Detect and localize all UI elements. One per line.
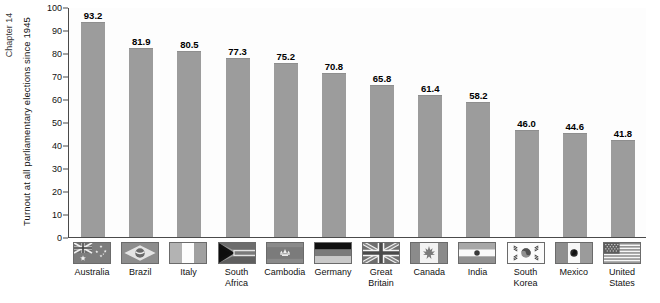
x-axis-category: Brazil — [116, 240, 164, 278]
bar[interactable] — [611, 140, 635, 237]
bar-value-label: 65.8 — [373, 73, 392, 84]
bar-slot: 80.5 — [177, 8, 201, 237]
y-tick-label: 0 — [38, 233, 62, 243]
flag-italy-icon — [169, 242, 207, 264]
x-axis-category-label: United States — [598, 267, 646, 288]
bar[interactable] — [274, 63, 298, 237]
bar-value-label: 61.4 — [421, 83, 440, 94]
bar-value-label: 44.6 — [565, 121, 584, 132]
flag-india-icon — [458, 242, 496, 264]
x-axis-category-label: South Africa — [213, 267, 261, 288]
x-axis-category: South Africa — [213, 240, 261, 288]
bar-value-label: 75.2 — [276, 51, 295, 62]
flag-south-africa-icon — [218, 242, 256, 264]
x-axis-category-label: Cambodia — [261, 267, 309, 278]
bar[interactable] — [177, 51, 201, 237]
bar-value-label: 58.2 — [469, 90, 488, 101]
bar-value-label: 41.8 — [614, 128, 633, 139]
bar[interactable] — [418, 95, 442, 237]
y-tick-label: 40 — [38, 141, 62, 151]
bar-slot: 41.8 — [611, 8, 635, 237]
x-axis-category: Canada — [405, 240, 453, 278]
x-axis-category-label: Germany — [309, 267, 357, 278]
flag-cambodia-icon — [266, 242, 304, 264]
bar-slot: 75.2 — [274, 8, 298, 237]
y-tick-label: 100 — [38, 3, 62, 13]
bar[interactable] — [129, 48, 153, 237]
x-axis-category: Cambodia — [261, 240, 309, 278]
bar-slot: 81.9 — [129, 8, 153, 237]
bar-slot: 93.2 — [81, 8, 105, 237]
x-axis-category: Italy — [164, 240, 212, 278]
chapter-tag-label: Chapter 14 — [4, 13, 14, 58]
bar[interactable] — [466, 102, 490, 237]
y-tick-label: 80 — [38, 49, 62, 59]
x-axis-category-label: Great Britain — [357, 267, 405, 288]
y-axis-ticks: 0102030405060708090100 — [34, 8, 68, 238]
bar-value-label: 80.5 — [180, 39, 199, 50]
bar[interactable] — [226, 58, 250, 237]
flag-united-states-icon — [603, 242, 641, 264]
bar-slot: 44.6 — [563, 8, 587, 237]
flag-australia-icon — [73, 242, 111, 264]
x-axis-category-label: Australia — [68, 267, 116, 278]
bar-value-label: 77.3 — [228, 46, 247, 57]
bar[interactable] — [563, 133, 587, 237]
x-axis-category-label: Canada — [405, 267, 453, 278]
x-axis-category-label: South Korea — [502, 267, 550, 288]
flag-great-britain-icon — [362, 242, 400, 264]
bar[interactable] — [322, 73, 346, 237]
y-tick-label: 30 — [38, 164, 62, 174]
chapter-tag: Chapter 14 — [0, 0, 18, 90]
bar-slot: 65.8 — [370, 8, 394, 237]
flag-mexico-icon — [555, 242, 593, 264]
bar-slot: 61.4 — [418, 8, 442, 237]
y-tick-label: 50 — [38, 118, 62, 128]
x-axis-category: India — [453, 240, 501, 278]
x-axis-category: South Korea — [502, 240, 550, 288]
x-axis-category: Great Britain — [357, 240, 405, 288]
bar-value-label: 70.8 — [325, 61, 344, 72]
turnout-bar-chart-figure: Chapter 14 Turnout at all parliamentary … — [0, 0, 660, 303]
bar-slot: 70.8 — [322, 8, 346, 237]
x-axis-category-label: Mexico — [550, 267, 598, 278]
bar-value-label: 93.2 — [84, 10, 103, 21]
y-tick-label: 90 — [38, 26, 62, 36]
x-axis-category: United States — [598, 240, 646, 288]
y-tick-label: 60 — [38, 95, 62, 105]
bar[interactable] — [370, 85, 394, 237]
bar-slot: 58.2 — [466, 8, 490, 237]
flag-canada-icon — [410, 242, 448, 264]
x-axis-category: Germany — [309, 240, 357, 278]
bar-value-label: 81.9 — [132, 36, 151, 47]
bar-value-label: 46.0 — [517, 118, 536, 129]
bar[interactable] — [515, 130, 539, 237]
x-axis-category-label: Brazil — [116, 267, 164, 278]
bar-slot: 46.0 — [515, 8, 539, 237]
y-tick-label: 20 — [38, 187, 62, 197]
y-axis-title-label: Turnout at all parliamentary elections s… — [21, 17, 32, 226]
x-axis-category: Mexico — [550, 240, 598, 278]
bar-slot: 77.3 — [226, 8, 250, 237]
y-axis-title: Turnout at all parliamentary elections s… — [18, 0, 34, 243]
y-tick-label: 70 — [38, 72, 62, 82]
x-axis-categories: Australia Brazil Italy South Africa Camb… — [68, 240, 646, 303]
x-axis-category-label: India — [453, 267, 501, 278]
flag-brazil-icon — [121, 242, 159, 264]
flag-germany-icon — [314, 242, 352, 264]
x-axis-category-label: Italy — [164, 267, 212, 278]
flag-south-korea-icon — [507, 242, 545, 264]
plot-area: 93.281.980.577.375.270.865.861.458.246.0… — [68, 8, 646, 238]
bar[interactable] — [81, 22, 105, 237]
x-axis-category: Australia — [68, 240, 116, 278]
y-tick-label: 10 — [38, 210, 62, 220]
